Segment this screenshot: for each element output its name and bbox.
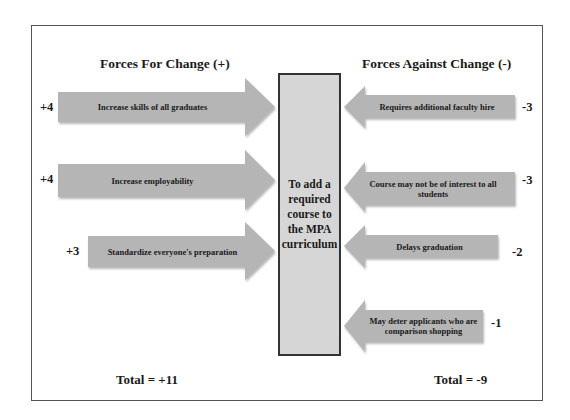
force-against-score-1: -3 (522, 100, 532, 115)
total-against: Total = -9 (434, 372, 487, 388)
force-for-score-2: +4 (40, 172, 53, 187)
force-against-score-3: -2 (512, 245, 522, 260)
proposed-change-box: To add a required course to the MPA curr… (278, 73, 341, 356)
force-for-label-3: Standardize everyone's preparation (90, 236, 255, 267)
force-for-score-3: +3 (66, 244, 79, 259)
force-against-label-3: Delays graduation (362, 235, 497, 258)
proposed-change-label: To add a required course to the MPA curr… (280, 177, 339, 252)
force-against-score-4: -1 (491, 316, 501, 331)
force-for-score-1: +4 (40, 100, 53, 115)
total-for: Total = +11 (116, 372, 178, 388)
force-against-label-2: Course may not be of interest to all stu… (368, 172, 498, 205)
force-against-label-4: May deter applicants who are comparison … (366, 310, 481, 342)
force-for-label-1: Increase skills of all graduates (60, 92, 245, 122)
force-against-score-2: -3 (522, 173, 532, 188)
force-for-label-2: Increase employability (60, 164, 245, 197)
force-against-label-1: Requires additional faculty hire (362, 95, 512, 118)
